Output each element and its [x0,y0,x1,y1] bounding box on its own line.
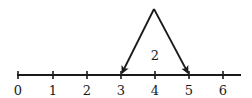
jump-arrows [122,9,188,73]
tick-labels: 0 1 2 3 4 5 6 [14,83,227,98]
tick-label-5: 5 [185,83,193,98]
tick-label-0: 0 [14,83,22,98]
tick-label-1: 1 [49,83,57,98]
tick-label-3: 3 [117,83,125,98]
jump-label: 2 [151,48,159,63]
arrow-right [154,9,188,73]
tick-label-2: 2 [83,83,91,98]
tick-label-4: 4 [151,83,159,98]
number-line-diagram: 0 1 2 3 4 5 6 2 [0,0,252,98]
arrow-left [122,9,154,73]
tick-label-6: 6 [219,83,227,98]
